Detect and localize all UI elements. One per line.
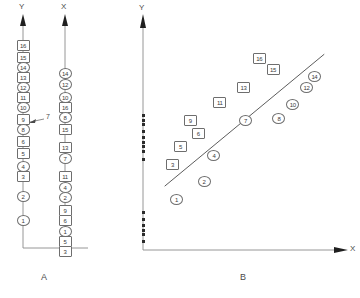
rank-marker: 10	[17, 102, 30, 113]
rug-mark	[142, 123, 145, 126]
rank-marker: 9	[59, 205, 72, 216]
rank-marker: 1	[17, 215, 30, 226]
rank-marker: 5	[17, 148, 30, 159]
scatter-point: 4	[207, 150, 220, 161]
rank-marker: 4	[17, 161, 30, 172]
rank-marker: 10	[59, 92, 72, 103]
panel-a-annotation: 7	[46, 113, 50, 120]
rank-marker: 3	[17, 171, 30, 182]
rank-marker: 12	[17, 82, 30, 93]
rug-mark	[142, 229, 145, 232]
rug-mark	[142, 224, 145, 227]
rank-marker: 14	[59, 68, 72, 79]
rug-mark	[142, 136, 145, 139]
rug-mark	[142, 145, 145, 148]
scatter-point: 13	[237, 82, 250, 93]
panel-a-caption: A	[24, 272, 64, 282]
scatter-point: 5	[174, 141, 187, 152]
panel-a-x-axis-label: X	[61, 2, 66, 11]
rank-marker: 4	[59, 182, 72, 193]
scatter-point: 8	[272, 113, 285, 124]
panel-b: Y X 12478101214356911131516 B	[118, 0, 360, 298]
scatter-point: 11	[213, 97, 226, 108]
panel-a-y-axis-label: Y	[19, 2, 24, 11]
rug-mark	[142, 119, 145, 122]
scatter-point: 12	[300, 82, 313, 93]
scatter-point: 2	[198, 176, 211, 187]
rank-marker: 11	[59, 171, 72, 182]
rug-mark	[142, 150, 145, 153]
rank-marker: 8	[59, 112, 72, 123]
scatter-point: 15	[267, 64, 280, 75]
rank-marker: 1	[59, 226, 72, 237]
rank-marker: 8	[17, 124, 30, 135]
rank-marker: 3	[59, 246, 72, 257]
rank-marker: 14	[17, 62, 30, 73]
panel-a: Y X 16 15 14 13 12 11 10 9 8 6 5 4 3 2 1…	[0, 0, 118, 298]
rank-marker: 9	[17, 114, 30, 125]
rank-marker: 2	[17, 191, 30, 202]
rug-mark	[142, 240, 145, 243]
scatter-point: 16	[253, 53, 266, 64]
rank-marker: 6	[17, 136, 30, 147]
figure: Y X 16 15 14 13 12 11 10 9 8 6 5 4 3 2 1…	[0, 0, 360, 298]
rank-marker: 12	[59, 79, 72, 90]
scatter-plot-area: 12478101214356911131516	[118, 0, 360, 298]
scatter-point: 14	[308, 71, 321, 82]
scatter-point: 1	[170, 194, 183, 205]
rug-mark	[142, 114, 145, 117]
rank-marker: 7	[59, 153, 72, 164]
rank-marker: 16	[17, 40, 30, 51]
rank-marker: 15	[17, 52, 30, 63]
rank-marker: 15	[59, 124, 72, 135]
rank-marker: 5	[59, 236, 72, 247]
rug-mark	[142, 158, 145, 161]
rug-mark	[142, 233, 145, 236]
rank-marker: 2	[59, 192, 72, 203]
rug-mark	[142, 141, 145, 144]
scatter-point: 7	[239, 115, 252, 126]
scatter-point: 10	[286, 99, 299, 110]
rug-mark	[142, 218, 145, 221]
scatter-point: 6	[192, 128, 205, 139]
panel-b-caption: B	[223, 272, 263, 282]
rug-mark	[142, 130, 145, 133]
rank-marker: 16	[59, 102, 72, 113]
scatter-point: 3	[166, 159, 179, 170]
rank-marker: 6	[59, 215, 72, 226]
rank-marker: 11	[17, 92, 30, 103]
scatter-point: 9	[184, 115, 197, 126]
rug-mark	[142, 211, 145, 214]
rank-marker: 13	[59, 142, 72, 153]
rank-marker: 13	[17, 72, 30, 83]
